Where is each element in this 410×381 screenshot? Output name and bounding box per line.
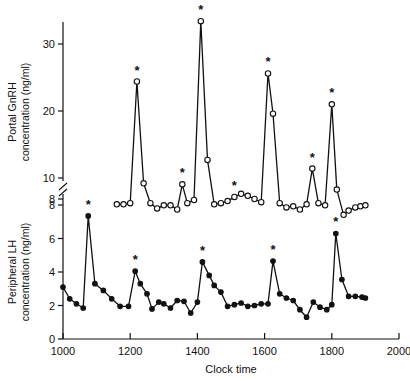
x-tick-label: 1800: [320, 345, 344, 357]
portal-gnrh-point: [198, 19, 203, 24]
lh-ytick-label: 2: [49, 300, 55, 312]
portal-gnrh-point: [148, 201, 153, 206]
lh-ytick-label: 4: [49, 266, 55, 278]
portal-gnrh-pulse-asterisk: *: [134, 63, 140, 78]
gnrh-ytick-label: 10: [43, 172, 55, 184]
portal-gnrh-point: [297, 207, 302, 212]
portal-gnrh-point: [341, 212, 346, 217]
peripheral-lh-point: [126, 304, 131, 309]
peripheral-lh-point: [346, 294, 351, 299]
peripheral-lh-point: [311, 300, 316, 305]
portal-gnrh-pulse-asterisk: *: [232, 178, 238, 193]
x-axis-title: Clock time: [205, 363, 256, 375]
peripheral-lh-point: [271, 259, 276, 264]
peripheral-lh-point: [168, 306, 173, 311]
portal-gnrh-point: [245, 193, 250, 198]
portal-gnrh-point: [225, 198, 230, 203]
series-layer: [61, 19, 368, 320]
portal-gnrh-pulse-asterisk: *: [310, 150, 316, 165]
portal-gnrh-point: [277, 201, 282, 206]
peripheral-lh-point: [325, 307, 330, 312]
peripheral-lh-point: [330, 302, 335, 307]
peripheral-lh-point: [266, 302, 271, 307]
portal-gnrh-point: [346, 208, 351, 213]
portal-gnrh-point: [114, 202, 119, 207]
peripheral-lh-point: [175, 298, 180, 303]
line-chart-svg: 302010864208100012001400160018002000Cloc…: [0, 0, 410, 381]
peripheral-lh-point: [340, 277, 345, 282]
portal-gnrh-point: [252, 196, 257, 201]
portal-gnrh-point: [161, 203, 166, 208]
portal-gnrh-point: [316, 201, 321, 206]
portal-gnrh-point: [270, 111, 275, 116]
peripheral-lh-point: [109, 297, 114, 302]
peripheral-lh-point: [86, 214, 91, 219]
x-tick-label: 1400: [185, 345, 209, 357]
portal-gnrh-pulse-asterisk: *: [329, 85, 335, 100]
lh-ytick-label: 8: [49, 199, 55, 211]
x-tick-label: 1600: [252, 345, 276, 357]
peripheral-lh-point: [93, 281, 98, 286]
portal-gnrh-pulse-asterisk: *: [180, 165, 186, 180]
x-tick-label: 1200: [118, 345, 142, 357]
portal-gnrh-line: [117, 21, 366, 215]
portal-gnrh-point: [353, 205, 358, 210]
axes-layer: [58, 22, 399, 339]
portal-gnrh-point: [259, 200, 264, 205]
portal-gnrh-point: [291, 204, 296, 209]
peripheral-lh-pulse-asterisk: *: [270, 242, 276, 257]
x-tick-label: 2000: [387, 345, 410, 357]
peripheral-lh-point: [157, 300, 162, 305]
portal-gnrh-point: [329, 102, 334, 107]
peripheral-lh-point: [74, 302, 79, 307]
portal-gnrh-point: [121, 202, 126, 207]
portal-gnrh-point: [265, 71, 270, 76]
peripheral-lh-point: [277, 292, 282, 297]
peripheral-lh-point: [200, 260, 205, 265]
peripheral-lh-point: [239, 301, 244, 306]
x-tick-label: 1000: [51, 345, 75, 357]
peripheral-lh-point: [318, 305, 323, 310]
peripheral-lh-point: [298, 307, 303, 312]
peripheral-lh-point: [219, 290, 224, 295]
portal-gnrh-point: [284, 205, 289, 210]
lh-axis-title-line2: concentration (ng/ml): [19, 223, 31, 322]
peripheral-lh-point: [145, 292, 150, 297]
portal-gnrh-pulse-asterisk: *: [265, 54, 271, 69]
peripheral-lh-point: [353, 294, 358, 299]
peripheral-lh-point: [304, 315, 309, 320]
portal-gnrh-pulse-asterisk: *: [198, 2, 204, 17]
gnrh-ytick-label: 20: [43, 105, 55, 117]
peripheral-lh-point: [212, 283, 217, 288]
portal-gnrh-point: [205, 157, 210, 162]
portal-gnrh-point: [180, 182, 185, 187]
lh-ytick-label: 6: [49, 233, 55, 245]
peripheral-lh-point: [182, 299, 187, 304]
gnrh-axis-title-line1: Portal GnRH: [6, 82, 18, 142]
peripheral-lh-point: [118, 304, 123, 309]
peripheral-lh-point: [252, 303, 257, 308]
peripheral-lh-point: [81, 306, 86, 311]
portal-gnrh-point: [134, 79, 139, 84]
labels-layer: 302010864208100012001400160018002000Cloc…: [6, 2, 410, 375]
peripheral-lh-point: [259, 302, 264, 307]
portal-gnrh-point: [168, 203, 173, 208]
peripheral-lh-point: [67, 297, 72, 302]
chart-figure: 302010864208100012001400160018002000Cloc…: [0, 0, 410, 381]
peripheral-lh-point: [150, 307, 155, 312]
portal-gnrh-point: [128, 201, 133, 206]
peripheral-lh-point: [188, 311, 193, 316]
peripheral-lh-point: [195, 300, 200, 305]
lh-axis-title-line1: Peripheral LH: [6, 240, 18, 304]
axis-break-mark-upper: [59, 183, 67, 190]
peripheral-lh-point: [207, 273, 212, 278]
portal-gnrh-point: [218, 201, 223, 206]
peripheral-lh-pulse-asterisk: *: [86, 197, 92, 212]
peripheral-lh-point: [138, 281, 143, 286]
portal-gnrh-point: [232, 194, 237, 199]
peripheral-lh-pulse-asterisk: *: [333, 214, 339, 229]
peripheral-lh-point: [291, 298, 296, 303]
portal-gnrh-point: [363, 203, 368, 208]
portal-gnrh-point: [154, 206, 159, 211]
peripheral-lh-pulse-asterisk: *: [133, 252, 139, 267]
